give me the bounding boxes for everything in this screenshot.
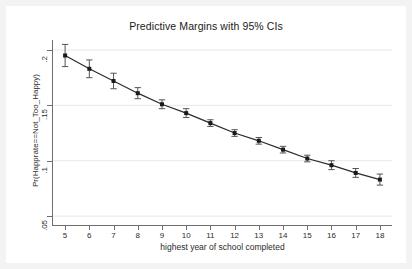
data-point-marker (329, 163, 333, 167)
plot-area (53, 40, 392, 225)
x-axis-title: highest year of school completed (53, 242, 392, 252)
data-point-marker (63, 54, 67, 58)
x-axis-tick (114, 226, 115, 230)
y-axis-title: Pr(Happrate==Not_Too_Happy) (31, 36, 40, 226)
x-axis-tick (283, 226, 284, 230)
plot-svg (53, 40, 392, 225)
data-point-group (231, 130, 237, 137)
data-point-group (62, 44, 68, 66)
y-tick-label: .2 (40, 48, 49, 70)
x-axis-tick (89, 226, 90, 230)
chart-canvas: Predictive Margins with 95% CIs .05.1.15… (6, 6, 406, 263)
x-tick-label: 15 (295, 231, 319, 240)
x-axis-tick (210, 226, 211, 230)
x-tick-label: 17 (344, 231, 368, 240)
data-point-marker (136, 91, 140, 95)
data-point-marker (354, 171, 358, 175)
x-tick-label: 7 (102, 231, 126, 240)
data-point-marker (87, 67, 91, 71)
data-point-group (135, 88, 141, 99)
x-tick-label: 5 (53, 231, 77, 240)
data-point-group (159, 100, 165, 109)
data-point-marker (233, 131, 237, 135)
data-point-group (280, 146, 286, 153)
x-tick-label: 14 (271, 231, 295, 240)
data-point-marker (305, 157, 309, 161)
data-point-group (207, 120, 213, 127)
x-tick-label: 12 (223, 231, 247, 240)
x-axis-tick (162, 226, 163, 230)
x-axis-tick (259, 226, 260, 230)
x-axis-tick (138, 226, 139, 230)
data-point-group (256, 137, 262, 144)
x-axis-tick (307, 226, 308, 230)
data-point-marker (160, 102, 164, 106)
x-tick-label: 9 (150, 231, 174, 240)
chart-figure: Predictive Margins with 95% CIs .05.1.15… (0, 0, 412, 269)
data-point-marker (208, 121, 212, 125)
x-axis-tick (186, 226, 187, 230)
data-point-group (86, 60, 92, 78)
y-tick-label: .1 (40, 159, 49, 181)
y-tick-label: .05 (40, 215, 49, 237)
x-axis-tick (235, 226, 236, 230)
x-axis-tick (356, 226, 357, 230)
data-point-marker (112, 79, 116, 83)
data-point-group (183, 109, 189, 118)
x-axis-tick (380, 226, 381, 230)
data-point-marker (257, 139, 261, 143)
x-axis-line (52, 225, 392, 226)
data-point-marker (378, 178, 382, 182)
x-axis-tick (331, 226, 332, 230)
x-tick-label: 8 (126, 231, 150, 240)
y-tick-label: .15 (40, 104, 49, 126)
x-tick-label: 16 (319, 231, 343, 240)
data-point-marker (281, 148, 285, 152)
data-point-group (110, 73, 116, 89)
x-tick-label: 13 (247, 231, 271, 240)
data-point-marker (184, 111, 188, 115)
x-tick-label: 10 (174, 231, 198, 240)
chart-title: Predictive Margins with 95% CIs (6, 20, 406, 32)
x-axis-tick (65, 226, 66, 230)
x-tick-label: 6 (77, 231, 101, 240)
x-tick-label: 11 (198, 231, 222, 240)
x-tick-label: 18 (368, 231, 392, 240)
y-axis-line (52, 40, 53, 226)
